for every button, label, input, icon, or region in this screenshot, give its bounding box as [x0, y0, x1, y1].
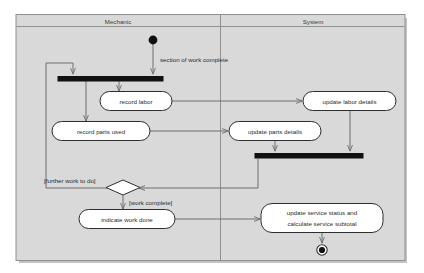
final-node [317, 245, 327, 255]
action-update-service-status-label-line2: calculate service subtotal [287, 220, 356, 227]
action-update-parts-details[interactable]: update parts details [229, 122, 321, 141]
fork-bar [58, 77, 163, 82]
action-indicate-work-done[interactable]: indicate work done [79, 210, 175, 229]
action-update-service-status-label-line1: update service status and [287, 209, 358, 216]
guard-label-work-complete: [work complete] [129, 199, 173, 206]
action-indicate-work-done-label: indicate work done [101, 216, 153, 223]
lane-title-mechanic: Mechanic [105, 18, 131, 25]
action-update-service-status[interactable]: update service status and calculate serv… [261, 204, 383, 233]
action-update-parts-details-label: update parts details [248, 128, 302, 135]
action-record-labor-label: record labor [119, 98, 152, 105]
diagram-canvas: Mechanic System [0, 0, 424, 273]
action-update-labor-details-label: update labor details [322, 98, 376, 105]
guard-label-further-work-to-do: [further work to do] [44, 177, 96, 184]
action-record-labor[interactable]: record labor [100, 92, 172, 111]
lane-title-system: System [303, 18, 324, 25]
initial-node [149, 36, 158, 45]
action-update-labor-details[interactable]: update labor details [303, 92, 396, 111]
action-record-parts-used[interactable]: record parts used [52, 122, 150, 141]
action-record-parts-used-label: record parts used [77, 128, 126, 135]
edge-label-section-of-work-complete: section of work complete [160, 56, 229, 63]
join-bar [255, 154, 363, 159]
activity-diagram: Mechanic System [0, 0, 424, 273]
